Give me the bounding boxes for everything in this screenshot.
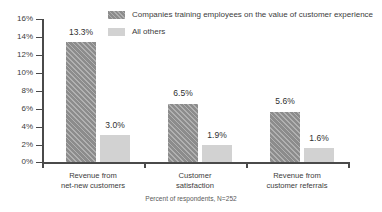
y-axis-tick: [36, 91, 42, 92]
legend-item-all-others: All others: [108, 25, 378, 39]
y-axis-label-6: 6%: [0, 105, 33, 113]
legend-swatch-dark-icon: [108, 11, 125, 19]
y-axis-label-12: 12%: [0, 51, 33, 59]
chart-footnote: Percent of respondents, N=252: [0, 195, 382, 203]
y-axis-line: [42, 19, 44, 163]
y-axis-tick: [36, 145, 42, 146]
y-axis-label-8: 8%: [0, 87, 33, 95]
bar-chart: Companies training employees on the valu…: [0, 0, 382, 212]
y-axis-label-4: 4%: [0, 123, 33, 131]
y-axis-tick: [36, 127, 42, 128]
bar-dark-net-new-customers: [66, 42, 96, 162]
x-axis-tick: [144, 162, 146, 168]
y-axis-label-16: 16%: [0, 15, 33, 23]
legend-label-companies-training: Companies training employees on the valu…: [132, 10, 373, 20]
x-axis-tick: [42, 162, 44, 168]
bar-value-5-6: 5.6%: [255, 97, 315, 106]
y-axis-tick: [36, 73, 42, 74]
legend-item-companies-training: Companies training employees on the valu…: [108, 8, 378, 22]
y-axis-label-14: 14%: [0, 33, 33, 41]
bar-value-1-6: 1.6%: [289, 134, 349, 143]
y-axis-label-10: 10%: [0, 69, 33, 77]
x-axis-tick: [348, 162, 350, 168]
y-axis-tick: [36, 109, 42, 110]
x-axis-line: [42, 162, 349, 164]
x-axis-category-customer-referrals: Revenue from customer referrals: [247, 171, 347, 190]
x-axis-category-net-new-customers: Revenue from net-new customers: [43, 171, 143, 190]
bar-light-customer-satisfaction: [202, 145, 232, 162]
y-axis-label-0: 0%: [0, 158, 33, 166]
bar-value-13-3: 13.3%: [51, 28, 111, 37]
x-axis-tick: [246, 162, 248, 168]
y-axis-tick: [36, 55, 42, 56]
bar-value-6-5: 6.5%: [153, 89, 213, 98]
bar-value-1-9: 1.9%: [187, 131, 247, 140]
y-axis-label-2: 2%: [0, 141, 33, 149]
y-axis-tick: [36, 19, 42, 20]
bar-light-net-new-customers: [100, 135, 130, 162]
chart-legend: Companies training employees on the valu…: [108, 8, 378, 42]
legend-label-all-others: All others: [132, 27, 165, 37]
y-axis-tick: [36, 37, 42, 38]
bar-light-customer-referrals: [304, 148, 334, 162]
x-axis-category-customer-satisfaction: Customer satisfaction: [145, 171, 245, 190]
bar-value-3-0: 3.0%: [85, 121, 145, 130]
